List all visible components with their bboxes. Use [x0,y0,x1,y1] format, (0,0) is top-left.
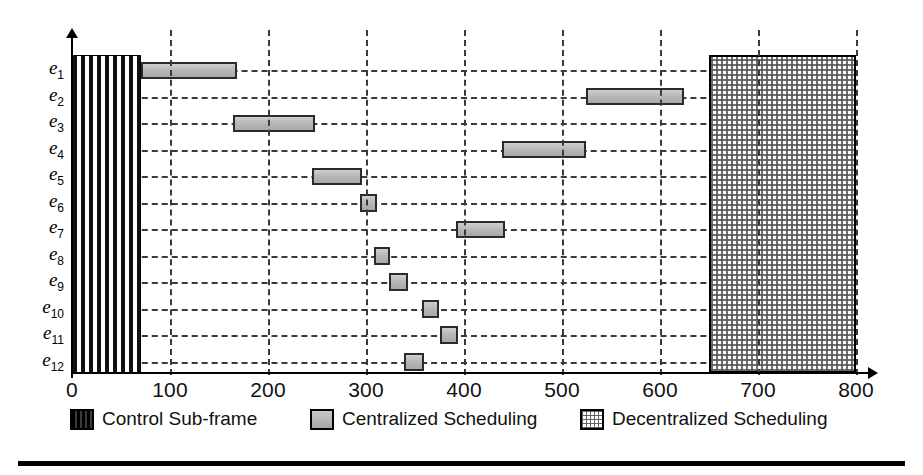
legend-item-0: Control Sub-frame [70,408,257,430]
control-subframe-region [72,55,141,373]
x-tick-label-500: 500 [522,378,602,402]
legend-item-1: Centralized Scheduling [310,408,537,430]
x-tick-label-700: 700 [718,378,798,402]
gridline-vertical-100 [170,30,172,375]
x-tick-label-800: 800 [816,378,896,402]
y-axis-label-e2: e2 [6,84,64,109]
chart-legend: Control Sub-frameCentralized SchedulingD… [0,408,923,442]
y-axis-arrow [66,28,78,38]
task-bar-e6 [360,194,377,212]
y-axis-label-e8: e8 [6,243,64,268]
y-axis-label-e1: e1 [6,57,64,82]
gridline-vertical-300 [366,30,368,375]
y-axis-label-e12: e12 [6,349,64,374]
gridline-vertical-500 [562,30,564,375]
y-axis-label-e10: e10 [6,296,64,321]
y-axis-line [71,34,73,378]
x-tick-label-100: 100 [130,378,210,402]
task-bar-e10 [422,300,440,318]
gridline-vertical-600 [660,30,662,375]
gridline-vertical-700 [758,30,760,375]
task-bar-e8 [374,247,391,265]
task-bar-e2 [586,88,684,105]
x-tick-label-200: 200 [228,378,308,402]
task-bar-e4 [502,141,585,158]
y-axis-label-e11: e11 [6,322,64,347]
x-tick-label-600: 600 [620,378,700,402]
legend-label-2: Decentralized Scheduling [612,408,827,430]
gridline-vertical-400 [464,30,466,375]
scheduling-gantt-figure: 0100200300400500600700800 e1e2e3e4e5e6e7… [0,0,923,475]
legend-item-2: Decentralized Scheduling [580,408,827,430]
y-axis-label-e4: e4 [6,137,64,162]
task-bar-e11 [440,326,459,344]
x-tick-label-0: 0 [32,378,112,402]
y-axis-label-e9: e9 [6,269,64,294]
gridline-vertical-800 [856,30,858,375]
y-axis-label-e7: e7 [6,216,64,241]
task-bar-e9 [389,273,409,291]
bottom-rule-divider [18,461,905,466]
task-bar-e1 [141,62,237,79]
y-axis-label-e3: e3 [6,110,64,135]
x-tick-label-400: 400 [424,378,504,402]
x-axis-line [72,372,872,374]
control-subframe-swatch [70,409,94,430]
x-tick-label-300: 300 [326,378,406,402]
gridline-vertical-200 [268,30,270,375]
task-bar-e3 [233,115,315,132]
legend-label-1: Centralized Scheduling [342,408,537,430]
task-bar-e5 [312,168,362,185]
decentralized-scheduling-swatch [580,409,604,430]
y-axis-label-e6: e6 [6,190,64,215]
decentralized-scheduling-region [709,55,856,373]
y-axis-label-e5: e5 [6,163,64,188]
legend-label-0: Control Sub-frame [102,408,257,430]
centralized-scheduling-swatch [310,409,334,430]
task-bar-e12 [404,353,424,371]
